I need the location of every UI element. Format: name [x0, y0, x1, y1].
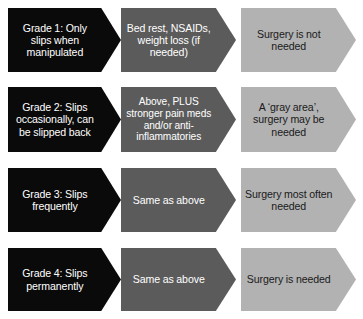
diagram-row: Grade 1: Only slips when manipulated Bed…: [0, 8, 363, 72]
grade-chevron-3-label: Grade 3: Slips frequently: [12, 188, 98, 212]
surgery-chevron-3-label: Surgery most often needed: [245, 188, 332, 212]
diagram-row: Grade 2: Slips occasionally, can be slip…: [0, 87, 363, 152]
treatment-chevron-1-label: Bed rest, NSAIDs, weight loss (if needed…: [125, 22, 212, 58]
treatment-chevron-3-label: Same as above: [125, 194, 212, 206]
grade-chevron-1: Grade 1: Only slips when manipulated: [8, 8, 121, 72]
treatment-chevron-2-label: Above, PLUS stronger pain meds and/or an…: [125, 96, 212, 143]
grade-chevron-2: Grade 2: Slips occasionally, can be slip…: [8, 87, 121, 152]
surgery-chevron-2-label: A ‘gray area’, surgery may be needed: [245, 101, 332, 137]
treatment-chevron-3: Same as above: [121, 168, 236, 232]
grade-chevron-1-label: Grade 1: Only slips when manipulated: [12, 22, 98, 58]
grade-chevron-4-label: Grade 4: Slips permanently: [12, 267, 98, 291]
diagram-row: Grade 3: Slips frequently Same as above …: [0, 168, 363, 232]
surgery-chevron-1: Surgery is not needed: [241, 8, 356, 72]
surgery-chevron-3: Surgery most often needed: [241, 168, 356, 232]
chevron-diagram: Grade 1: Only slips when manipulated Bed…: [0, 0, 363, 319]
treatment-chevron-4: Same as above: [121, 248, 236, 311]
surgery-chevron-4: Surgery is needed: [241, 248, 356, 311]
diagram-row: Grade 4: Slips permanently Same as above…: [0, 248, 363, 311]
treatment-chevron-4-label: Same as above: [125, 273, 212, 285]
surgery-chevron-1-label: Surgery is not needed: [245, 28, 332, 52]
treatment-chevron-2: Above, PLUS stronger pain meds and/or an…: [121, 87, 236, 152]
grade-chevron-3: Grade 3: Slips frequently: [8, 168, 121, 232]
surgery-chevron-4-label: Surgery is needed: [245, 273, 332, 285]
surgery-chevron-2: A ‘gray area’, surgery may be needed: [241, 87, 356, 152]
grade-chevron-4: Grade 4: Slips permanently: [8, 248, 121, 311]
grade-chevron-2-label: Grade 2: Slips occasionally, can be slip…: [12, 101, 98, 137]
treatment-chevron-1: Bed rest, NSAIDs, weight loss (if needed…: [121, 8, 236, 72]
